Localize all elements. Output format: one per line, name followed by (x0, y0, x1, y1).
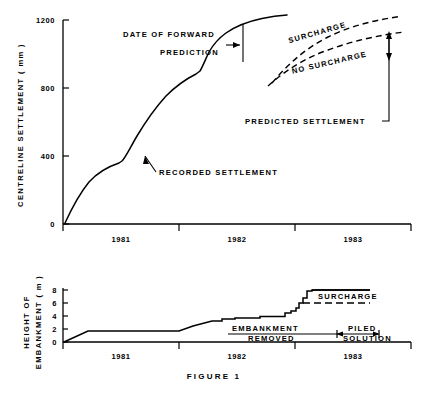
embankment-xtick-1982: 1982 (227, 352, 246, 361)
settlement-y-axis-title: CENTRELINE SETTLEMENT ( mm ) (16, 43, 25, 207)
prediction-range-arrow-head-bottom (386, 53, 392, 61)
embankment-ytick-0: 0 (52, 338, 57, 347)
settlement-xtick-1982: 1982 (227, 235, 246, 244)
piled-solution-label-line2: SOLUTION (343, 334, 392, 343)
figure-svg: CENTRELINE SETTLEMENT ( mm ) 1200 800 40… (0, 0, 428, 394)
date-forward-prediction-line2: PREDICTION (160, 48, 219, 57)
embankment-ytick-2: 2 (52, 325, 57, 334)
embankment-removed-label-line2: REMOVED (248, 334, 295, 343)
settlement-xtick-1981: 1981 (111, 235, 130, 244)
figure-container: CENTRELINE SETTLEMENT ( mm ) 1200 800 40… (0, 0, 428, 394)
settlement-xtick-1983: 1983 (343, 235, 362, 244)
settlement-ytick-0: 0 (50, 220, 55, 229)
prediction-arrow-head (233, 42, 240, 48)
figure-caption: FIGURE 1 (187, 372, 242, 381)
embankment-y-axis-title-line2: EMBANKMENT ( m ) (34, 275, 43, 369)
embankment-panel: HEIGHT OF EMBANKMENT ( m ) 8 6 4 2 0 198… (22, 275, 411, 369)
embankment-xtick-1983: 1983 (343, 352, 362, 361)
embankment-ytick-8: 8 (52, 286, 57, 295)
surcharge-region-label: SURCHARGE (318, 292, 378, 301)
piled-solution-label-line1: PILED (348, 324, 376, 333)
embankment-xtick-1981: 1981 (111, 352, 130, 361)
embankment-removed-label-line1: EMBANKMENT (232, 324, 299, 333)
embankment-ytick-4: 4 (52, 312, 57, 321)
settlement-ytick-400: 400 (41, 152, 55, 161)
predicted-settlement-leader (382, 35, 389, 121)
embankment-ytick-6: 6 (52, 299, 57, 308)
recorded-settlement-callout-label: RECORDED SETTLEMENT (159, 168, 278, 177)
settlement-panel: CENTRELINE SETTLEMENT ( mm ) 1200 800 40… (16, 15, 411, 244)
settlement-ytick-1200: 1200 (36, 16, 55, 25)
date-forward-prediction-line1: DATE OF FORWARD (123, 30, 215, 39)
embankment-y-axis-title-line1: HEIGHT OF (22, 295, 31, 348)
predicted-settlement-callout-label: PREDICTED SETTLEMENT (245, 117, 366, 126)
settlement-ytick-800: 800 (41, 84, 55, 93)
